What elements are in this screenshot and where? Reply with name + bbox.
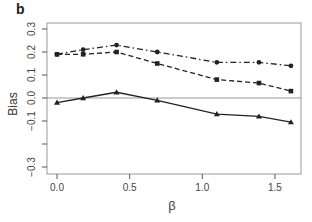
y-tick-label: −0.1 — [26, 111, 37, 131]
circle-marker — [155, 50, 160, 55]
x-axis-label: β — [168, 198, 175, 213]
y-tick-label: 0.3 — [26, 22, 37, 36]
circle-marker — [289, 63, 294, 68]
y-tick-label: 0.0 — [26, 91, 37, 105]
x-axis: 0.00.51.01.5 — [50, 174, 282, 193]
square-marker — [257, 81, 262, 86]
x-tick-label: 1.5 — [268, 182, 282, 193]
square-marker — [289, 89, 294, 94]
square-marker — [55, 52, 60, 57]
square-marker — [155, 61, 160, 66]
x-tick-label: 0.5 — [123, 182, 137, 193]
y-tick-label: 0.2 — [26, 45, 37, 59]
y-axis: −0.3−0.10.00.10.20.3 — [26, 22, 47, 177]
x-tick-label: 0.0 — [50, 182, 64, 193]
circle-marker — [214, 60, 219, 65]
series-square — [55, 50, 294, 94]
y-axis-label: Bias — [6, 92, 20, 115]
triangle-marker — [114, 89, 120, 94]
square-marker — [81, 52, 86, 57]
circle-marker — [114, 43, 119, 48]
x-tick-label: 1.0 — [195, 182, 209, 193]
square-marker — [215, 77, 220, 82]
circle-marker — [257, 60, 262, 65]
y-tick-label: −0.3 — [26, 157, 37, 177]
series-group — [54, 43, 294, 125]
y-tick-label: 0.1 — [26, 68, 37, 82]
circle-marker — [81, 47, 86, 52]
square-marker — [114, 50, 119, 55]
series-circle — [55, 43, 294, 69]
series-triangle — [54, 89, 294, 124]
bias-line-chart: −0.3−0.10.00.10.20.3 0.00.51.01.5 Bias β — [0, 0, 312, 222]
